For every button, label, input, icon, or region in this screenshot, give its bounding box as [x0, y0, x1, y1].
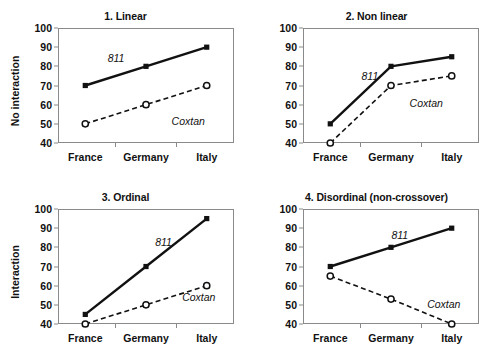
y-axis-label-text: Interaction: [9, 245, 21, 299]
x-axis-label-germany: Germany: [368, 332, 414, 344]
x-axis-label-italy: Italy: [441, 332, 462, 344]
x-axis-label-italy: Italy: [441, 151, 462, 163]
data-point-marker-circle: [143, 102, 149, 108]
data-point-marker-square: [204, 45, 209, 50]
data-point-marker-square: [449, 226, 454, 231]
plot-area: 100908070605040FranceGermanyItaly811Coxt…: [303, 209, 479, 324]
panel-title: 4. Disordinal (non-crossover): [251, 191, 502, 203]
panel-title: 2. Non linear: [251, 10, 502, 22]
x-tick-mark: [115, 324, 116, 328]
data-point-marker-square: [204, 216, 209, 221]
series-annotation-coxtan: Coxtan: [182, 291, 215, 303]
series-annotation-811: 811: [362, 70, 379, 82]
x-axis-label-germany: Germany: [123, 151, 169, 163]
chart-panel-1: 1. LinearNo interaction100908070605040Fr…: [0, 0, 251, 181]
data-point-marker-square: [143, 264, 148, 269]
x-tick-mark: [115, 143, 116, 147]
series-annotation-coxtan: Coxtan: [172, 115, 205, 127]
interaction-plots-figure: 1. LinearNo interaction100908070605040Fr…: [0, 0, 502, 362]
data-point-marker-square: [328, 121, 333, 126]
data-point-marker-circle: [204, 283, 210, 289]
data-point-marker-circle: [388, 82, 394, 88]
x-axis-label-italy: Italy: [196, 151, 217, 163]
data-point-marker-circle: [327, 140, 333, 146]
data-point-marker-circle: [82, 121, 88, 127]
y-axis-label: No interaction: [6, 0, 24, 181]
data-point-marker-square: [449, 54, 454, 59]
data-point-marker-circle: [82, 321, 88, 327]
data-point-marker-circle: [388, 296, 394, 302]
series-layer: [58, 209, 234, 324]
x-axis-label-germany: Germany: [368, 151, 414, 163]
series-annotation-coxtan: Coxtan: [427, 298, 460, 310]
panel-title: 1. Linear: [0, 10, 251, 22]
plot-area: 100908070605040FranceGermanyItaly811Coxt…: [58, 28, 234, 143]
x-axis-label-germany: Germany: [123, 332, 169, 344]
y-axis-label-text: No interaction: [9, 55, 21, 126]
series-layer: [58, 28, 234, 143]
series-layer: [303, 28, 479, 143]
y-axis-label: Interaction: [6, 181, 24, 362]
plot-area: 100908070605040FranceGermanyItaly811Coxt…: [303, 28, 479, 143]
data-point-marker-square: [143, 64, 148, 69]
x-tick-mark: [176, 143, 177, 147]
chart-panel-3: 3. OrdinalInteraction100908070605040Fran…: [0, 181, 251, 362]
data-point-marker-square: [83, 312, 88, 317]
x-tick-mark: [176, 324, 177, 328]
data-point-marker-circle: [143, 302, 149, 308]
x-tick-mark: [360, 324, 361, 328]
panel-title: 3. Ordinal: [0, 191, 251, 203]
x-axis-label-italy: Italy: [196, 332, 217, 344]
plot-area: 100908070605040FranceGermanyItaly811Coxt…: [58, 209, 234, 324]
data-point-marker-square: [388, 64, 393, 69]
series-annotation-811: 811: [108, 52, 125, 64]
data-point-marker-square: [388, 245, 393, 250]
data-point-marker-circle: [204, 82, 210, 88]
data-point-marker-circle: [449, 321, 455, 327]
x-tick-mark: [421, 324, 422, 328]
data-point-marker-circle: [449, 73, 455, 79]
x-tick-mark: [360, 143, 361, 147]
x-tick-mark: [421, 143, 422, 147]
x-axis-label-france: France: [313, 151, 347, 163]
series-annotation-811: 811: [155, 236, 172, 248]
x-axis-label-france: France: [68, 151, 102, 163]
x-axis-label-france: France: [68, 332, 102, 344]
series-annotation-811: 811: [391, 229, 408, 241]
series-annotation-coxtan: Coxtan: [410, 97, 443, 109]
chart-panel-2: 2. Non linear100908070605040FranceGerman…: [251, 0, 502, 181]
data-point-marker-circle: [327, 273, 333, 279]
x-axis-label-france: France: [313, 332, 347, 344]
chart-panel-4: 4. Disordinal (non-crossover)10090807060…: [251, 181, 502, 362]
data-point-marker-square: [328, 264, 333, 269]
data-point-marker-square: [83, 83, 88, 88]
